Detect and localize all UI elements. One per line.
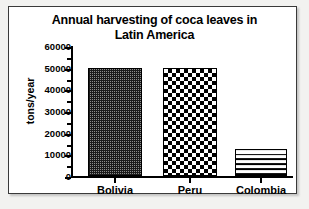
y-tick-label-30000: 30000	[19, 106, 71, 117]
chart-frame: Annual harvesting of coca leaves in Lati…	[8, 6, 297, 194]
y-axis-title: tons/year	[24, 66, 36, 136]
y-tick-label-60000: 60000	[19, 41, 71, 52]
y-minor-tick	[67, 58, 71, 60]
x-tick-peru	[189, 178, 191, 183]
x-axis-label-bolivia: Bolivia	[79, 184, 151, 196]
y-tick-label-40000: 40000	[19, 84, 71, 95]
y-minor-tick	[67, 166, 71, 168]
y-tick-label-20000: 20000	[19, 128, 71, 139]
y-minor-tick	[67, 145, 71, 147]
plot-area: tons/year 0 10000 20000 30000	[9, 7, 296, 193]
x-axis-label-colombia: Colombia	[223, 184, 299, 196]
bar-colombia[interactable]	[235, 149, 287, 176]
y-axis-line	[71, 46, 73, 178]
chart-figure: Annual harvesting of coca leaves in Lati…	[0, 0, 309, 209]
y-minor-tick	[67, 123, 71, 125]
x-tick-bolivia	[114, 178, 116, 183]
y-tick-label-0: 0	[19, 171, 71, 182]
x-axis-label-peru: Peru	[155, 184, 225, 196]
y-minor-tick	[67, 101, 71, 103]
y-minor-tick	[67, 80, 71, 82]
bar-peru[interactable]	[163, 68, 217, 176]
y-tick-label-50000: 50000	[19, 63, 71, 74]
bar-bolivia[interactable]	[88, 68, 142, 176]
y-tick-label-10000: 10000	[19, 149, 71, 160]
x-tick-colombia	[260, 178, 262, 183]
